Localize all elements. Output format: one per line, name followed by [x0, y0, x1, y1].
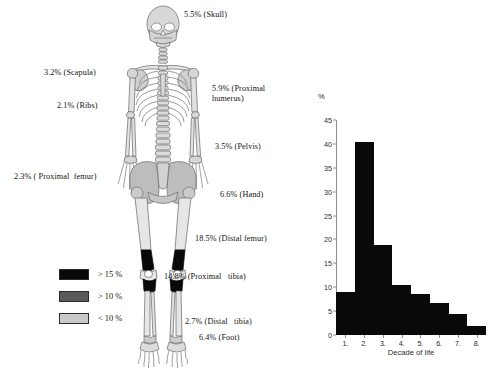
x-tick-mark: [439, 335, 440, 338]
histogram-bar: [392, 285, 411, 335]
y-tick-label: 0: [328, 331, 336, 340]
callout-distal-tibia: 2.7% (Distal tibia): [185, 317, 252, 327]
legend-item-medium: > 10 %: [59, 290, 122, 303]
x-tick-mark: [420, 335, 421, 338]
y-tick-label: 35: [324, 163, 336, 172]
histogram-bar: [411, 294, 430, 335]
callout-hand: 6.6% (Hand): [220, 190, 263, 200]
callout-skull: 5.5% (Skull): [184, 10, 227, 20]
decade-of-life-chart: % 051015202530354045 1.2.3.4.5.6.7.8. De…: [305, 92, 497, 367]
callout-pelvis: 3.5% (Pelvis): [215, 142, 261, 152]
legend-label-low: < 10 %: [98, 314, 122, 323]
x-tick-label: 3.: [380, 339, 386, 348]
callout-proximal-humerus: 5.9% (Proximal humerus): [212, 84, 284, 104]
y-tick-label: 25: [324, 211, 336, 220]
x-tick-label: 7.: [455, 339, 461, 348]
x-tick-mark: [458, 335, 459, 338]
x-tick-label: 4.: [399, 339, 405, 348]
legend-label-medium: > 10 %: [98, 292, 122, 301]
x-tick-label: 2.: [361, 339, 367, 348]
x-tick-label: 5.: [417, 339, 423, 348]
callout-proximal-femur: 2.3% ( Proximal femur): [14, 172, 97, 182]
y-tick-label: 45: [324, 116, 336, 125]
histogram-bar: [355, 142, 374, 335]
y-tick-label: 5: [328, 307, 336, 316]
x-axis-title: Decade of life: [336, 348, 486, 357]
callout-scapula: 3.2% (Scapula): [44, 68, 96, 78]
x-tick-mark: [383, 335, 384, 338]
histogram-bar: [467, 326, 486, 335]
y-tick-label: 30: [324, 187, 336, 196]
x-tick-label: 8.: [474, 339, 480, 348]
legend-item-low: < 10 %: [59, 312, 122, 325]
callout-proximal-tibia: 14.8% (Proximal tibia): [164, 272, 246, 282]
y-tick-label: 40: [324, 139, 336, 148]
y-tick-label: 10: [324, 283, 336, 292]
callout-ribs: 2.1% (Ribs): [57, 101, 98, 111]
chart-plot-area: 051015202530354045 1.2.3.4.5.6.7.8.: [336, 120, 486, 335]
histogram-bar: [449, 314, 468, 335]
x-tick-label: 1.: [342, 339, 348, 348]
callout-distal-femur: 18.5% (Distal femur): [195, 234, 267, 244]
shading-legend: > 15 %> 10 %< 10 %: [59, 268, 171, 330]
callout-foot: 6.4% (Foot): [199, 333, 240, 343]
chart-y-axis-unit-label: %: [318, 92, 325, 101]
histogram-bar: [336, 292, 355, 335]
histogram-bar: [430, 303, 449, 335]
x-tick-mark: [477, 335, 478, 338]
x-tick-mark: [402, 335, 403, 338]
legend-swatch-medium: [59, 291, 89, 302]
osteosarcoma-distribution-figure: 5.5% (Skull)3.2% (Scapula)5.9% (Proximal…: [0, 0, 501, 375]
legend-swatch-high: [59, 269, 89, 280]
y-tick-label: 15: [324, 259, 336, 268]
legend-item-high: > 15 %: [59, 268, 122, 281]
x-tick-label: 6.: [436, 339, 442, 348]
histogram-bar: [374, 245, 393, 335]
legend-swatch-low: [59, 313, 89, 324]
x-tick-mark: [364, 335, 365, 338]
x-tick-mark: [345, 335, 346, 338]
legend-label-high: > 15 %: [98, 270, 122, 279]
y-tick-label: 20: [324, 235, 336, 244]
